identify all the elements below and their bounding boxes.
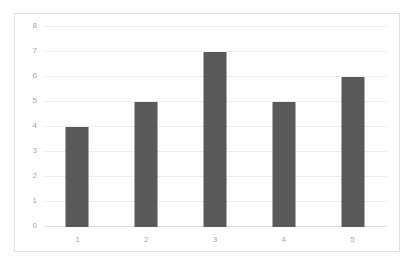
x-axis-tick-label: 4: [282, 236, 286, 244]
bar-slot: 2: [112, 27, 181, 227]
bar[interactable]: [135, 102, 158, 227]
y-axis-tick-label: 8: [33, 22, 37, 30]
bar[interactable]: [272, 102, 295, 227]
y-axis-tick-label: 4: [33, 122, 37, 130]
x-axis-tick-label: 2: [144, 236, 148, 244]
bar[interactable]: [203, 52, 226, 227]
plot-area: 012345678 12345: [43, 27, 387, 227]
bar-slot: 5: [318, 27, 387, 227]
bar[interactable]: [66, 127, 89, 227]
x-axis-tick-label: 5: [350, 236, 354, 244]
bar-slot: 3: [181, 27, 250, 227]
chart-frame: 012345678 12345: [14, 13, 400, 252]
bar-slot: 1: [43, 27, 112, 227]
bars-layer: 12345: [43, 27, 387, 227]
y-axis-tick-label: 2: [33, 172, 37, 180]
bar-slot: 4: [249, 27, 318, 227]
y-axis-tick-label: 3: [33, 147, 37, 155]
y-axis-tick-label: 1: [33, 197, 37, 205]
y-axis-tick-label: 6: [33, 72, 37, 80]
x-axis-tick-label: 3: [213, 236, 217, 244]
bar[interactable]: [341, 77, 364, 227]
y-axis-tick-label: 0: [33, 222, 37, 230]
y-axis-tick-label: 5: [33, 97, 37, 105]
y-axis-tick-label: 7: [33, 47, 37, 55]
x-axis-tick-label: 1: [75, 236, 79, 244]
